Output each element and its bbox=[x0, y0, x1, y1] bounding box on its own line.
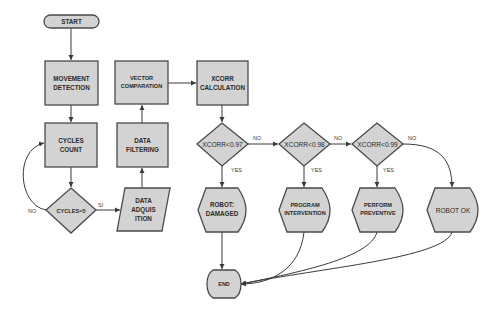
node-label-line3: ITION bbox=[135, 215, 152, 222]
process-shape bbox=[117, 123, 168, 167]
node-label: CYCLES=5 bbox=[56, 208, 85, 214]
node-label-line1: VECTOR bbox=[130, 75, 153, 81]
edge-label-d1-yes: YES bbox=[231, 167, 242, 173]
edge-intervention-end bbox=[241, 232, 304, 284]
node-decision-099[interactable]: XCORR<0.99 bbox=[352, 123, 403, 166]
node-perform-preventive[interactable]: PERFORM PREVENTIVE bbox=[352, 188, 403, 232]
edge-ok-end bbox=[241, 232, 452, 284]
node-label: XCORR<0.98 bbox=[284, 141, 325, 148]
node-decision-097[interactable]: XCORR<0.97 bbox=[197, 123, 248, 166]
edge-label-d2-no: NO bbox=[334, 135, 343, 141]
node-label-line2: PREVENTIVE bbox=[360, 210, 396, 216]
node-label-line1: XCORR bbox=[211, 75, 234, 82]
edge-label-d1-no: NO bbox=[253, 135, 262, 141]
node-label-line1: DATA bbox=[135, 197, 152, 204]
process-shape bbox=[197, 61, 248, 105]
node-label-line2: CALCULATION bbox=[200, 84, 245, 91]
edge-preventive-end bbox=[241, 232, 377, 284]
node-label: XCORR<0.99 bbox=[357, 141, 398, 148]
node-xcorr-calculation[interactable]: XCORR CALCULATION bbox=[197, 61, 248, 105]
node-label-line1: DATA bbox=[134, 137, 151, 144]
node-label-line1: CYCLES bbox=[58, 137, 84, 144]
node-label: START bbox=[61, 18, 82, 25]
node-label: ROBOT OK bbox=[436, 207, 471, 214]
edge-label-d3-no: NO bbox=[408, 135, 417, 141]
node-label-line2: COMPARATION bbox=[121, 83, 162, 89]
node-robot-damaged[interactable]: ROBOT: DAMAGED bbox=[198, 188, 246, 232]
edge-label-cycles-yes: SI bbox=[98, 202, 104, 208]
edge-d3-no-ok bbox=[403, 144, 452, 187]
node-movement-detection[interactable]: MOVEMENT DETECTION bbox=[45, 61, 98, 105]
node-label-line1: ROBOT: bbox=[210, 201, 234, 208]
node-data-filtering[interactable]: DATA FILTERING bbox=[117, 123, 168, 167]
node-end[interactable]: END bbox=[207, 270, 241, 298]
node-label-line2: DETECTION bbox=[53, 84, 90, 91]
node-label-line2: ADQUIS bbox=[131, 206, 156, 214]
node-program-intervention[interactable]: PROGRAM INTERVENTION bbox=[279, 188, 330, 232]
edge-label-d3-yes: YES bbox=[383, 167, 394, 173]
node-robot-ok[interactable]: ROBOT OK bbox=[427, 188, 478, 232]
process-shape bbox=[45, 61, 98, 105]
node-label-line1: PERFORM bbox=[364, 202, 392, 208]
node-start[interactable]: START bbox=[44, 15, 99, 28]
process-shape bbox=[45, 123, 97, 167]
node-label-line2: COUNT bbox=[60, 146, 83, 153]
edge-label-d2-yes: YES bbox=[311, 167, 322, 173]
node-label: END bbox=[218, 281, 229, 287]
node-data-acquisition[interactable]: DATA ADQUIS ITION bbox=[117, 188, 170, 231]
node-label-line1: PROGRAM bbox=[290, 202, 320, 208]
node-cycles-count[interactable]: CYCLES COUNT bbox=[45, 123, 97, 167]
node-label: XCORR<0.97 bbox=[202, 141, 243, 148]
node-decision-098[interactable]: XCORR<0.98 bbox=[279, 123, 330, 166]
node-label-line2: FILTERING bbox=[126, 146, 159, 153]
node-cycles-check[interactable]: CYCLES=5 bbox=[46, 188, 96, 233]
node-label-line2: INTERVENTION bbox=[284, 210, 326, 216]
edge-check-no-loop bbox=[23, 143, 46, 210]
edge-label-cycles-no: NO bbox=[28, 208, 37, 214]
node-label-line2: DAMAGED bbox=[206, 210, 239, 217]
node-vector-comparation[interactable]: VECTOR COMPARATION bbox=[115, 61, 168, 104]
node-label-line1: MOVEMENT bbox=[53, 75, 90, 82]
flowchart-canvas: NO SI NO YES NO YES NO YES START MOVEMEN… bbox=[0, 0, 498, 310]
